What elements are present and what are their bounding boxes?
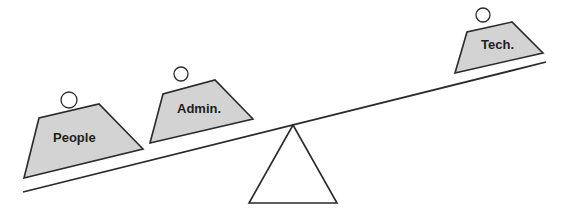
weight-people: People xyxy=(24,92,143,178)
fulcrum-triangle xyxy=(249,125,337,203)
weight-tech-label: Tech. xyxy=(481,37,514,52)
weight-admin: Admin. xyxy=(150,67,253,143)
weight-people-handle-icon xyxy=(61,92,77,108)
weight-tech: Tech. xyxy=(455,8,543,73)
weight-tech-handle-icon xyxy=(476,8,490,22)
weight-people-label: People xyxy=(53,130,96,145)
weight-admin-handle-icon xyxy=(174,67,188,81)
seesaw-diagram: People Admin. Tech. xyxy=(0,0,567,221)
weight-admin-label: Admin. xyxy=(177,101,221,116)
